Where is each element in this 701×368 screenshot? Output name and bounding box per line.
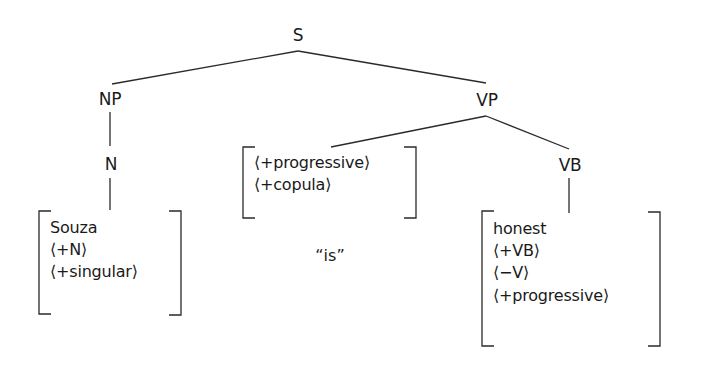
node-np: NP (99, 91, 121, 108)
feature-plus-copula: ⟨+copula⟩ (254, 177, 331, 193)
edge-s-np (112, 51, 298, 84)
syntax-tree-diagram: S NP VP N VB Souza ⟨+N⟩ ⟨+singular⟩ ⟨+pr… (0, 0, 701, 368)
bracket-right-souza (169, 211, 181, 315)
node-vp: VP (476, 92, 497, 109)
feature-plus-n: ⟨+N⟩ (50, 242, 87, 258)
bracket-right-aux (404, 147, 416, 218)
feature-word-souza: Souza (50, 220, 97, 236)
node-n: N (105, 156, 117, 173)
node-s: S (293, 27, 304, 44)
tree-edges (0, 0, 701, 368)
edge-vp-vb (486, 116, 569, 149)
bracket-right-honest (648, 212, 660, 346)
feature-plus-progressive: ⟨+progressive⟩ (254, 155, 370, 171)
feature-minus-v: ⟨−V⟩ (493, 265, 529, 281)
feature-plus-singular: ⟨+singular⟩ (50, 264, 138, 280)
feature-plus-progressive-vb: ⟨+progressive⟩ (493, 288, 609, 304)
surface-form-is: “is” (315, 248, 344, 264)
edge-s-vp (298, 51, 486, 83)
feature-word-honest: honest (493, 221, 546, 237)
edge-vp-aux (331, 116, 486, 147)
feature-plus-vb: ⟨+VB⟩ (493, 243, 540, 259)
node-vb: VB (559, 157, 582, 174)
